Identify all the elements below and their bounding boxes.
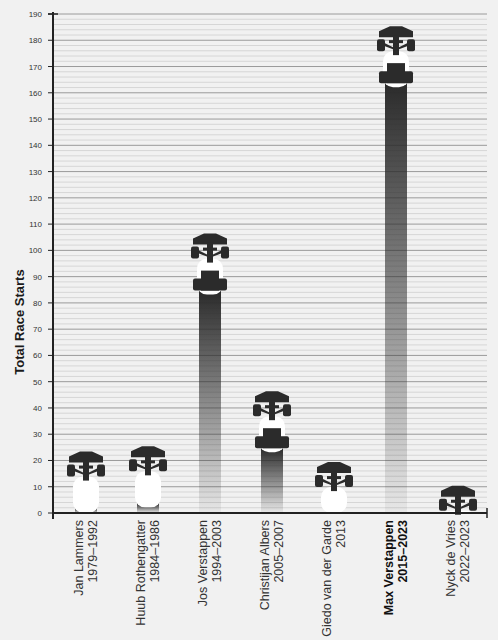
bar-1 (129, 446, 167, 513)
driver-years: 2005–2007 (272, 520, 286, 610)
bar-0 (67, 452, 105, 513)
driver-years: 2015–2023 (396, 520, 410, 615)
y-tick-label: 90 (33, 273, 42, 282)
y-tick-label: 30 (33, 430, 42, 439)
y-tick-label: 110 (29, 220, 42, 229)
car-icon (439, 486, 477, 515)
x-tick-label: Huub Rothengatter1984–1986 (128, 520, 168, 630)
driver-years: 1984–1986 (148, 520, 162, 626)
y-tick-label: 100 (29, 246, 43, 255)
y-tick-label: 150 (29, 115, 43, 124)
driver-years: 2013 (334, 520, 348, 637)
exhaust-trail (199, 291, 221, 513)
x-tick-label: Jan Lammers1979–1992 (66, 520, 106, 630)
driver-name: Max Verstappen (382, 520, 396, 615)
bar-6 (439, 486, 477, 515)
exhaust-trail (385, 83, 407, 513)
x-tick-label: Giedo van der Garde2013 (314, 520, 354, 630)
y-tick-label: 50 (33, 378, 42, 387)
exhaust-trail (261, 448, 283, 513)
y-tick-label: 80 (33, 299, 42, 308)
driver-name: Christijan Albers (258, 520, 272, 610)
bar-5 (377, 26, 415, 513)
driver-years: 1994–2003 (210, 520, 224, 606)
y-tick-label: 120 (29, 194, 43, 203)
x-tick-label: Christijan Albers2005–2007 (252, 520, 292, 630)
car-icon (377, 26, 415, 55)
y-axis-title: Total Race Starts (9, 0, 29, 636)
car-icon (253, 391, 291, 420)
y-tick-label: 20 (33, 456, 42, 465)
bar-3 (253, 391, 291, 513)
car-icon (315, 462, 353, 491)
driver-name: Huub Rothengatter (134, 520, 148, 626)
car-glow (135, 471, 161, 507)
y-tick-label: 0 (38, 509, 43, 518)
driver-name: Giedo van der Garde (320, 520, 334, 637)
driver-name: Jan Lammers (72, 520, 86, 596)
car-icon (191, 234, 229, 263)
y-tick-label: 60 (33, 351, 42, 360)
y-tick-label: 70 (33, 325, 42, 334)
driver-years: 2022–2023 (458, 520, 472, 597)
bar-4 (315, 462, 353, 513)
x-tick-label: Max Verstappen2015–2023 (376, 520, 416, 630)
driver-name: Jos Verstappen (196, 520, 210, 606)
y-tick-label: 170 (29, 63, 43, 72)
y-tick-label: 140 (29, 141, 43, 150)
y-tick-label: 160 (29, 89, 43, 98)
car-glow (73, 477, 99, 513)
y-tick-label: 10 (33, 483, 42, 492)
y-tick-label: 130 (29, 168, 43, 177)
y-tick-label: 190 (29, 10, 43, 19)
driver-name: Nyck de Vries (444, 520, 458, 597)
driver-years: 1979–1992 (86, 520, 100, 596)
x-tick-label: Jos Verstappen1994–2003 (190, 520, 230, 630)
car-icon (67, 452, 105, 481)
y-tick-label: 40 (33, 404, 42, 413)
y-tick-label: 180 (29, 36, 43, 45)
car-icon (129, 446, 167, 475)
x-tick-label: Nyck de Vries2022–2023 (438, 520, 478, 630)
